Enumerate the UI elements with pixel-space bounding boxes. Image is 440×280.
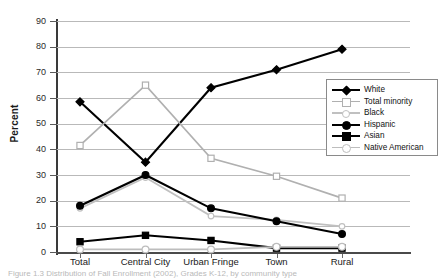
legend-symbol <box>342 144 351 153</box>
legend-symbol <box>342 98 351 107</box>
data-point <box>208 213 214 219</box>
legend-symbol <box>342 86 352 96</box>
legend-marker-icon <box>332 142 360 153</box>
data-point <box>273 218 280 225</box>
data-point <box>339 243 346 250</box>
legend-item: Total minority <box>332 96 433 108</box>
data-point <box>142 232 148 238</box>
data-point <box>273 243 280 250</box>
data-point <box>208 237 214 243</box>
legend-label: White <box>364 85 385 94</box>
data-point <box>208 155 214 161</box>
series-black <box>77 175 345 229</box>
data-point <box>142 82 148 88</box>
data-point <box>273 173 279 179</box>
series-white <box>76 45 346 166</box>
legend-symbol <box>342 132 351 141</box>
legend-marker-icon <box>332 84 360 95</box>
legend-label: Black <box>364 108 384 117</box>
data-point <box>77 239 83 245</box>
legend-label: Asian <box>364 131 384 140</box>
legend-item: Black <box>332 107 433 119</box>
chart-figure: Percent 0102030405060708090 TotalCentral… <box>0 0 440 280</box>
data-point <box>339 224 345 230</box>
legend-marker-icon <box>332 107 360 118</box>
series-total-minority <box>77 82 345 201</box>
legend-item: Asian <box>332 130 433 142</box>
data-point <box>339 231 346 238</box>
data-point <box>208 246 215 253</box>
legend-item: Native American <box>332 142 433 154</box>
series-line <box>80 49 342 162</box>
series-hispanic <box>77 172 346 238</box>
figure-caption: Figure 1.3 Distribution of Fall Enrollme… <box>8 269 438 280</box>
series-line <box>80 85 342 198</box>
legend-symbol <box>342 110 350 118</box>
legend-label: Native American <box>364 143 424 152</box>
data-point <box>142 246 149 253</box>
data-point <box>208 205 215 212</box>
legend-marker-icon <box>332 119 360 130</box>
data-point <box>339 195 345 201</box>
data-point <box>77 142 83 148</box>
chart-legend: WhiteTotal minorityBlackHispanicAsianNat… <box>326 79 438 156</box>
data-point <box>273 66 281 74</box>
legend-label: Hispanic <box>364 120 395 129</box>
legend-label: Total minority <box>364 97 412 106</box>
data-point <box>77 202 84 209</box>
legend-item: Hispanic <box>332 119 433 131</box>
data-point <box>142 172 149 179</box>
legend-marker-icon <box>332 96 360 107</box>
legend-item: White <box>332 84 433 96</box>
legend-marker-icon <box>332 130 360 141</box>
legend-symbol <box>342 121 351 130</box>
data-point <box>77 246 84 253</box>
data-point <box>338 45 346 53</box>
